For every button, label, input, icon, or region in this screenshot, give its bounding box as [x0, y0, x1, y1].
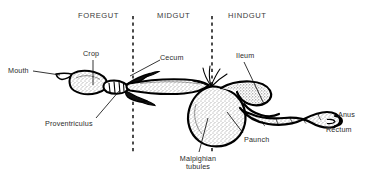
midgut-highlight [140, 82, 200, 84]
paunch-outline [188, 87, 245, 147]
paunch-inner-arc [195, 104, 202, 134]
part-label-proventriculus: Proventriculus [45, 120, 93, 128]
colon-loop [221, 81, 271, 105]
part-label-cecum: Cecum [160, 54, 184, 62]
leader-lines [33, 60, 264, 152]
region-label-foregut: FOREGUT [78, 12, 119, 20]
leader-malpighian [199, 118, 208, 152]
part-label-crop: Crop [83, 50, 99, 58]
malpighian-tubules-drawing [193, 66, 227, 106]
leader-ileum [244, 62, 264, 104]
crop-inner-shading [76, 76, 100, 80]
rectum-segment-lines [262, 114, 321, 126]
gut-body [56, 66, 342, 146]
part-label-anus: Anus [338, 111, 355, 119]
cecum-upper-tip [146, 71, 159, 77]
part-label-ileum: Ileum [236, 52, 254, 60]
divider-lines [133, 16, 212, 152]
colon-loop-fill [223, 83, 269, 104]
leader-paunch [227, 112, 243, 133]
region-label-hindgut: HINDGUT [228, 12, 266, 20]
part-label-mouth: Mouth [8, 67, 29, 75]
part-label-paunch: Paunch [244, 136, 269, 144]
midgut-tube [126, 79, 209, 94]
gut-anatomy-figure: FOREGUT MIDGUT HINDGUT Mouth Crop Proven… [0, 0, 365, 184]
cecum-lower [126, 91, 147, 102]
leader-cecum [130, 60, 160, 76]
cecum-lower-tip [140, 101, 155, 106]
ileum-outline [244, 104, 279, 116]
proventriculus-ridges [109, 82, 124, 94]
mouth-tube [56, 73, 73, 79]
proventriculus-outline [103, 81, 127, 94]
anus-notch [327, 119, 335, 123]
leader-proventriculus [96, 90, 120, 118]
part-label-malpighian-tubules: Malpighian tubules [168, 155, 228, 172]
malpighian-line-2: tubules [168, 163, 228, 171]
region-label-midgut: MIDGUT [157, 12, 190, 20]
crop-outline [70, 71, 108, 94]
cecum-upper [126, 74, 150, 86]
leader-mouth [33, 71, 60, 75]
part-label-rectum: Rectum [326, 126, 352, 134]
